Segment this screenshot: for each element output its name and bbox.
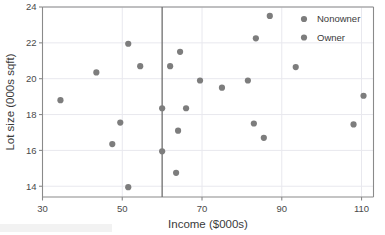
x-tick-label: 90 — [276, 203, 287, 214]
x-tick-label: 50 — [117, 203, 128, 214]
figure-bottom-strip — [0, 224, 112, 232]
y-tick-label: 18 — [26, 109, 37, 120]
data-point[interactable] — [245, 77, 251, 83]
legend-label-nonowner[interactable]: Nonowner — [317, 13, 360, 24]
data-point[interactable] — [173, 170, 179, 176]
y-tick-label: 16 — [26, 145, 37, 156]
data-point[interactable] — [93, 69, 99, 75]
data-point[interactable] — [177, 49, 183, 55]
data-point[interactable] — [197, 77, 203, 83]
legend-label-owner[interactable]: Owner — [317, 32, 345, 43]
y-tick-label: 24 — [26, 1, 37, 12]
data-point[interactable] — [219, 85, 225, 91]
y-axis-title: Lot size (000s sqft) — [4, 53, 16, 150]
data-point[interactable] — [360, 93, 366, 99]
y-tick-label: 14 — [26, 181, 37, 192]
data-point[interactable] — [261, 135, 267, 141]
scatter-plot-figure: 14161820222430507090110Income ($000s)Lot… — [0, 0, 385, 235]
y-tick-label: 22 — [26, 37, 37, 48]
data-point[interactable] — [267, 13, 273, 19]
y-axis: 141618202224 — [26, 1, 43, 191]
data-point[interactable] — [137, 63, 143, 69]
data-point[interactable] — [175, 128, 181, 134]
x-axis: 30507090110 — [37, 197, 369, 214]
chart-canvas: 14161820222430507090110Income ($000s)Lot… — [0, 0, 385, 235]
data-point[interactable] — [57, 97, 63, 103]
data-point[interactable] — [159, 148, 165, 154]
x-tick-label: 30 — [37, 203, 48, 214]
data-point[interactable] — [159, 105, 165, 111]
y-tick-label: 20 — [26, 73, 37, 84]
data-point[interactable] — [109, 141, 115, 147]
data-point[interactable] — [293, 64, 299, 70]
x-tick-label: 70 — [197, 203, 208, 214]
legend-marker-nonowner[interactable] — [301, 16, 307, 22]
data-point[interactable] — [167, 63, 173, 69]
data-point[interactable] — [183, 105, 189, 111]
x-tick-label: 110 — [354, 203, 369, 214]
data-point[interactable] — [125, 184, 131, 190]
data-point[interactable] — [350, 121, 356, 127]
data-point[interactable] — [125, 41, 131, 47]
legend-marker-owner[interactable] — [301, 34, 307, 40]
x-axis-title: Income ($000s) — [168, 218, 248, 230]
data-point[interactable] — [117, 120, 123, 126]
data-point[interactable] — [251, 120, 257, 126]
data-point[interactable] — [253, 35, 259, 41]
